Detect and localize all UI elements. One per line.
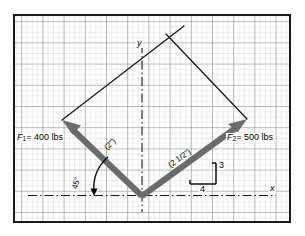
- label-f2: F2= 500 lbs: [226, 133, 274, 143]
- diagram-canvas: [0, 0, 305, 236]
- label-slope-run: 4: [199, 185, 206, 194]
- label-f2-value: = 500 lbs: [236, 132, 273, 142]
- force-vector-figure: F1= 400 lbs F2= 500 lbs (2") (2 1/2") 45…: [0, 0, 305, 236]
- label-x-axis: x: [269, 184, 276, 193]
- label-slope-rise: 3: [218, 161, 225, 170]
- label-f1-value: = 400 lbs: [26, 132, 63, 142]
- label-y-axis: y: [136, 39, 143, 48]
- label-f1: F1= 400 lbs: [16, 133, 64, 143]
